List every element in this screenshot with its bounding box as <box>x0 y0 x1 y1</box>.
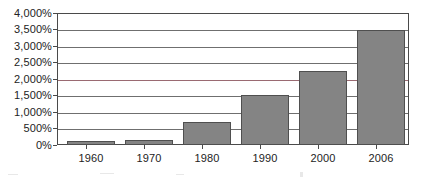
bar-2006 <box>357 30 405 145</box>
x-axis-label-2000: 2000 <box>294 152 352 165</box>
y-axis-label-0: 0% <box>0 140 52 151</box>
y-axis-label-1500: 1,500% <box>0 90 52 101</box>
x-axis: 1960 1970 1980 1990 2000 2006 <box>57 152 409 168</box>
x-axis-tick-4 <box>318 145 319 149</box>
y-axis-label-1000: 1,000% <box>0 107 52 118</box>
x-axis-label-2006: 2006 <box>352 152 410 165</box>
scan-artifact <box>176 174 184 175</box>
x-axis-label-1990: 1990 <box>236 152 294 165</box>
y-axis-label-4000: 4,000% <box>0 8 52 19</box>
x-axis-tick-2 <box>202 145 203 149</box>
y-axis-label-3500: 3,500% <box>0 24 52 35</box>
bar-1970 <box>125 140 173 145</box>
bar-series <box>57 13 409 145</box>
x-axis-tick-3 <box>260 145 261 149</box>
x-axis-tick-1 <box>144 145 145 149</box>
y-axis-label-2000: 2,000% <box>0 74 52 85</box>
y-axis-tick-0 <box>53 145 57 146</box>
bar-2000 <box>299 71 347 145</box>
scan-artifact <box>300 172 303 177</box>
x-axis-label-1980: 1980 <box>178 152 236 165</box>
bar-chart-figure: 4,000% 3,500% 3,000% 2,500% 2,000% 1,500… <box>0 0 421 180</box>
y-axis-label-3000: 3,000% <box>0 41 52 52</box>
scan-artifact <box>8 174 18 175</box>
y-axis-label-500: 500% <box>0 123 52 134</box>
bar-1960 <box>67 141 115 145</box>
x-axis-tick-0 <box>86 145 87 149</box>
x-axis-tick-5 <box>376 145 377 149</box>
x-axis-label-1970: 1970 <box>120 152 178 165</box>
scan-artifact <box>100 173 114 174</box>
x-axis-label-1960: 1960 <box>62 152 120 165</box>
y-axis-label-2500: 2,500% <box>0 57 52 68</box>
bar-1980 <box>183 122 231 145</box>
bar-1990 <box>241 95 289 145</box>
y-axis: 4,000% 3,500% 3,000% 2,500% 2,000% 1,500… <box>0 0 52 180</box>
